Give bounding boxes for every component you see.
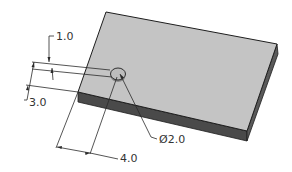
plate-top-face	[78, 12, 277, 131]
dimension-label-diameter: Ø2.0	[159, 133, 185, 146]
hole-edge	[111, 68, 126, 80]
dimension-label-1-0: 1.0	[56, 30, 74, 43]
dimension-label-3-0: 3.0	[29, 96, 47, 109]
part-drawing: 1.0 3.0 4.0 Ø2.0	[0, 0, 292, 172]
dimension-label-4-0: 4.0	[120, 152, 138, 165]
